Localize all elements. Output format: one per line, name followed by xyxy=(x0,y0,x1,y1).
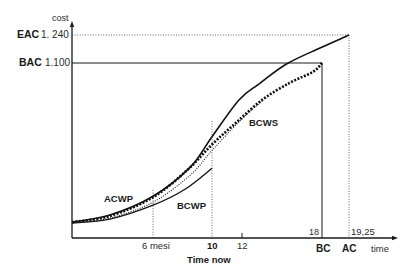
series-dotted-trend-line xyxy=(72,101,262,223)
bac-value-label: 1.100 xyxy=(45,57,70,68)
x-tick-6-mesi: 6 mesi xyxy=(142,240,170,251)
x-tick-19-25: 19,25 xyxy=(351,226,375,237)
eac-name-label: EAC xyxy=(17,28,40,40)
x-tick-12: 12 xyxy=(237,240,248,251)
earned-value-chart: cost EAC 1. 240 BAC 1.100 6 mesi 10 12 T… xyxy=(0,0,416,274)
x-axis-label: time xyxy=(371,243,389,254)
bc-label: BC xyxy=(316,243,330,254)
x-tick-18: 18 xyxy=(309,227,319,237)
series-bcwp-line xyxy=(72,168,212,223)
bcwp-annotation: BCWP xyxy=(177,200,207,211)
x-tick-10: 10 xyxy=(207,240,218,251)
ac-label: AC xyxy=(342,243,356,254)
acwp-annotation: ACWP xyxy=(104,193,134,204)
eac-value-label: 1. 240 xyxy=(41,29,69,40)
x-axis-arrow-icon xyxy=(392,236,398,240)
y-axis-arrow-icon xyxy=(70,21,74,27)
bcws-annotation: BCWS xyxy=(249,117,278,128)
bac-name-label: BAC xyxy=(19,56,42,68)
time-now-label: Time now xyxy=(187,254,231,265)
y-axis-label: cost xyxy=(52,13,69,23)
